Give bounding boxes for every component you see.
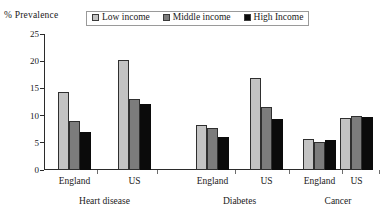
y-axis-tick-label: 20	[30, 57, 39, 66]
y-axis-tick-label: 25	[30, 30, 39, 39]
x-axis-group-label: Heart disease	[79, 196, 130, 206]
x-axis-tick	[289, 170, 290, 174]
x-axis-country-label: US	[128, 176, 140, 186]
legend-entry-middle-income: Middle income	[163, 13, 231, 23]
plot-area: 0510152025	[44, 34, 355, 170]
bar	[261, 107, 272, 170]
x-axis-group-label: Diabetes	[223, 196, 256, 206]
x-axis-tick	[342, 170, 343, 174]
x-axis-tick	[97, 170, 98, 174]
legend-swatch-high-income	[244, 14, 251, 21]
x-axis-group-label: Cancer	[325, 196, 352, 206]
bar	[58, 92, 69, 170]
y-axis-tick-label: 5	[35, 138, 40, 147]
y-axis-tick	[40, 170, 44, 171]
y-axis-tick-label: 15	[30, 84, 39, 93]
bar	[129, 99, 140, 170]
y-axis-tick	[40, 34, 44, 35]
bar	[351, 116, 362, 170]
legend-label-middle-income: Middle income	[173, 13, 231, 23]
legend-swatch-middle-income	[163, 14, 170, 21]
legend-swatch-low-income	[92, 14, 99, 21]
bar	[196, 125, 207, 170]
bar	[118, 60, 129, 170]
bar	[218, 137, 229, 170]
y-axis-tick	[40, 115, 44, 116]
legend-label-low-income: Low income	[102, 13, 150, 23]
y-axis-tick-label: 10	[30, 111, 39, 120]
bar	[250, 78, 261, 170]
bar	[207, 128, 218, 170]
x-axis-country-label: US	[260, 176, 272, 186]
x-axis-tick	[157, 170, 158, 174]
x-axis-country-label: US	[350, 176, 362, 186]
bar	[325, 140, 336, 170]
legend-entry-high-income: High Income	[244, 13, 304, 23]
legend-label-high-income: High Income	[254, 13, 304, 23]
bar	[303, 139, 314, 170]
legend-entry-low-income: Low income	[92, 13, 150, 23]
y-axis-title: % Prevalence	[4, 10, 58, 20]
x-axis-country-label: England	[59, 176, 91, 186]
y-axis-tick	[40, 88, 44, 89]
x-axis-country-label: England	[197, 176, 229, 186]
chart-legend: Low income Middle income High Income	[86, 11, 309, 26]
y-axis-tick-label: 0	[35, 166, 40, 175]
bar	[140, 104, 151, 170]
x-axis-tick	[235, 170, 236, 174]
x-axis-country-label: England	[304, 176, 336, 186]
y-axis-line	[44, 34, 45, 170]
bar	[272, 119, 283, 170]
bar	[314, 142, 325, 170]
bar	[362, 117, 373, 170]
y-axis-tick	[40, 142, 44, 143]
y-axis-tick	[40, 61, 44, 62]
bar	[80, 132, 91, 170]
bar	[69, 121, 80, 170]
bar	[340, 118, 351, 170]
